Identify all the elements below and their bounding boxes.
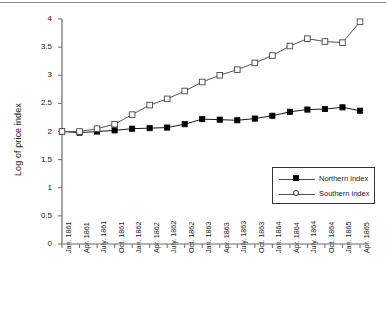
data-point-southern — [270, 53, 276, 59]
data-point-northern — [287, 109, 292, 114]
data-point-southern — [199, 79, 205, 85]
legend-entry-southern: Southern index — [273, 187, 374, 201]
data-point-southern — [357, 19, 363, 25]
price-index-chart: Log of price index 00.511.522.533.54 Jan… — [0, 0, 386, 312]
data-point-northern — [200, 117, 205, 122]
data-point-southern — [77, 129, 83, 135]
legend-marker-northern-icon — [293, 175, 299, 181]
data-point-southern — [252, 60, 258, 66]
series-line-northern — [62, 107, 360, 132]
data-point-northern — [235, 118, 240, 123]
data-point-northern — [217, 117, 222, 122]
data-point-southern — [59, 129, 65, 135]
data-point-northern — [357, 108, 362, 113]
data-point-southern — [147, 102, 153, 108]
data-point-northern — [322, 106, 327, 111]
data-point-northern — [165, 125, 170, 130]
data-point-northern — [130, 126, 135, 131]
legend-marker-southern-icon — [293, 190, 299, 196]
chart-legend: Northern index Southern index — [272, 167, 375, 204]
plot-area — [0, 0, 386, 312]
data-point-southern — [287, 43, 293, 49]
data-point-southern — [234, 67, 240, 73]
data-point-southern — [340, 40, 346, 46]
data-point-northern — [182, 122, 187, 127]
data-point-northern — [112, 128, 117, 133]
data-point-northern — [252, 116, 257, 121]
data-point-southern — [305, 36, 311, 42]
data-point-southern — [182, 88, 188, 94]
data-point-southern — [112, 121, 118, 127]
data-point-southern — [217, 72, 223, 78]
data-point-northern — [147, 126, 152, 131]
data-point-southern — [164, 96, 170, 102]
legend-label-southern: Southern index — [319, 189, 369, 198]
data-point-southern — [129, 112, 135, 118]
data-point-northern — [270, 113, 275, 118]
legend-label-northern: Northern index — [319, 174, 368, 183]
data-point-northern — [305, 107, 310, 112]
legend-entry-northern: Northern index — [273, 172, 374, 186]
data-point-southern — [322, 39, 328, 45]
data-point-northern — [340, 105, 345, 110]
data-point-southern — [94, 126, 100, 132]
series-line-southern — [62, 22, 360, 132]
